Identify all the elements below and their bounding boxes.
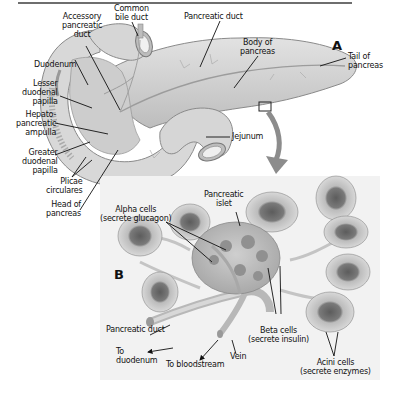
label-accessory-pancreatic-duct: Accessory pancreatic duct — [62, 12, 102, 39]
label-plicae-circulares: Plicae circulares — [46, 177, 83, 195]
label-alpha-cells: Alpha cells (secrete glucagon) — [100, 205, 171, 223]
label-to-duodenum: To duodenum — [116, 347, 157, 365]
panel-b-letter: B — [114, 267, 124, 282]
label-vein: Vein — [230, 352, 246, 361]
label-hepatopancreatic-ampulla: Hepato- pancreatic ampulla — [16, 110, 56, 137]
label-body-of-pancreas: Body of pancreas — [240, 38, 275, 56]
label-to-bloodstream: To bloodstream — [166, 360, 224, 369]
label-pancreatic-duct: Pancreatic duct — [184, 12, 243, 21]
label-beta-cells: Beta cells (secrete insulin) — [248, 326, 309, 344]
label-pancreatic-duct-b: Pancreatic duct — [106, 325, 165, 334]
label-acini-cells: Acini cells (secrete enzymes) — [300, 358, 371, 376]
label-greater-duodenal-papilla: Greater duodenal papilla — [22, 148, 58, 175]
label-common-bile-duct: Common bile duct — [114, 4, 149, 22]
label-lesser-duodenal-papilla: Lesser duodenal papilla — [22, 79, 58, 106]
label-duodenum: Duodenum — [34, 60, 76, 69]
label-pancreatic-islet: Pancreatic islet — [204, 190, 244, 208]
label-tail-of-pancreas: Tail of pancreas — [348, 52, 383, 70]
label-jejunum: Jejunum — [232, 132, 263, 141]
panel-a-letter: A — [332, 38, 342, 53]
label-head-of-pancreas: Head of pancreas — [46, 200, 81, 218]
panel-a-art — [40, 24, 356, 187]
